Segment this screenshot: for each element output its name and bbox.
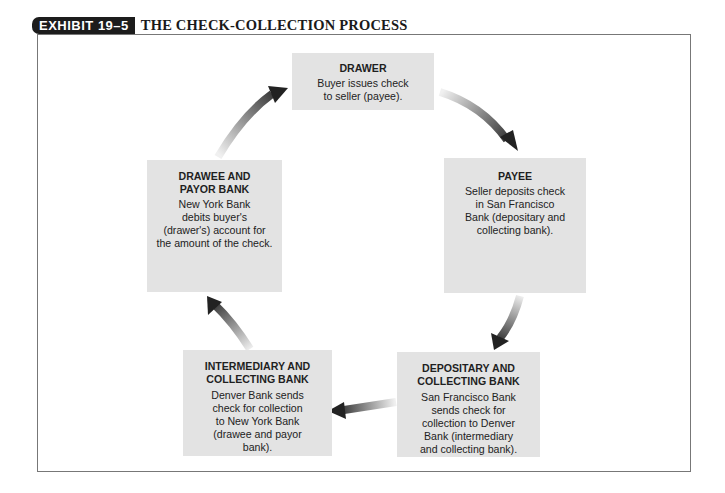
arrow-depositary-to-intermediary (328, 402, 396, 419)
node-depositary-body: San Francisco Bank sends check for colle… (397, 391, 540, 456)
node-payee-heading: PAYEE (444, 170, 586, 183)
arrow-drawer-to-payee (440, 92, 518, 151)
node-depositary-heading: DEPOSITARY AND COLLECTING BANK (397, 362, 540, 388)
arrow-payee-to-depositary (491, 296, 520, 350)
node-intermediary-body: Denver Bank sends check for collection t… (183, 389, 332, 454)
node-drawee-bank: DRAWEE AND PAYOR BANK New York Bank debi… (147, 160, 282, 292)
node-payee-body: Seller deposits check in San Francisco B… (444, 185, 586, 237)
node-drawer-heading: DRAWER (292, 62, 434, 75)
arrow-drawee-to-drawer (218, 86, 288, 157)
node-drawer-body: Buyer issues check to seller (payee). (292, 77, 434, 103)
node-drawee-heading: DRAWEE AND PAYOR BANK (147, 170, 282, 196)
node-payee: PAYEE Seller deposits check in San Franc… (444, 158, 586, 293)
node-intermediary-bank: INTERMEDIARY AND COLLECTING BANK Denver … (183, 350, 332, 456)
node-intermediary-heading: INTERMEDIARY AND COLLECTING BANK (183, 360, 332, 386)
node-drawee-body: New York Bank debits buyer's (drawer's) … (147, 198, 282, 250)
node-depositary-bank: DEPOSITARY AND COLLECTING BANK San Franc… (397, 352, 540, 457)
arrow-intermediary-to-drawee (207, 296, 250, 349)
node-drawer: DRAWER Buyer issues check to seller (pay… (292, 53, 434, 110)
